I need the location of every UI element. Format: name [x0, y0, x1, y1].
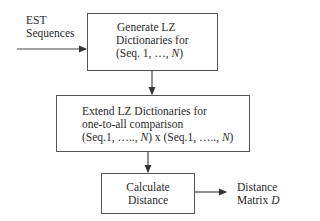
extend-line-3-close: )	[230, 131, 234, 143]
extend-line-1: Extend LZ Dictionaries for	[82, 105, 249, 118]
generate-line-2: Dictionaries for	[116, 34, 217, 47]
generate-line-3: (Seq. 1, …, N)	[116, 47, 217, 60]
extend-line-3: (Seq.1, ….., N) x (Seq.1, ….., N)	[82, 131, 249, 144]
input-label-line1: EST	[26, 14, 75, 27]
generate-line-3-close: )	[179, 47, 183, 59]
calculate-distance-box: Calculate Distance	[101, 173, 195, 214]
output-label-var: D	[271, 194, 279, 206]
output-label: Distance Matrix D	[237, 181, 280, 207]
generate-line-3-text: (Seq. 1, …,	[116, 47, 172, 59]
input-label: EST Sequences	[26, 14, 75, 40]
generate-dictionaries-box: Generate LZ Dictionaries for (Seq. 1, …,…	[87, 13, 218, 71]
calculate-line-2: Distance	[128, 194, 168, 207]
output-label-line2: Matrix D	[237, 194, 280, 207]
extend-line-3-b: ) x (Seq.1, …..,	[148, 131, 222, 143]
extend-line-3-a: (Seq.1, …..,	[82, 131, 140, 143]
extend-dictionaries-box: Extend LZ Dictionaries for one-to-all co…	[56, 95, 250, 152]
extend-line-2: one-to-all comparison	[82, 118, 249, 131]
extend-line-3-var1: N	[140, 131, 148, 143]
output-label-prefix: Matrix	[237, 194, 271, 206]
input-label-line2: Sequences	[26, 27, 75, 40]
extend-line-3-var2: N	[222, 131, 230, 143]
output-label-line1: Distance	[237, 181, 280, 194]
generate-line-1: Generate LZ	[117, 21, 217, 34]
calculate-line-1: Calculate	[126, 181, 169, 194]
